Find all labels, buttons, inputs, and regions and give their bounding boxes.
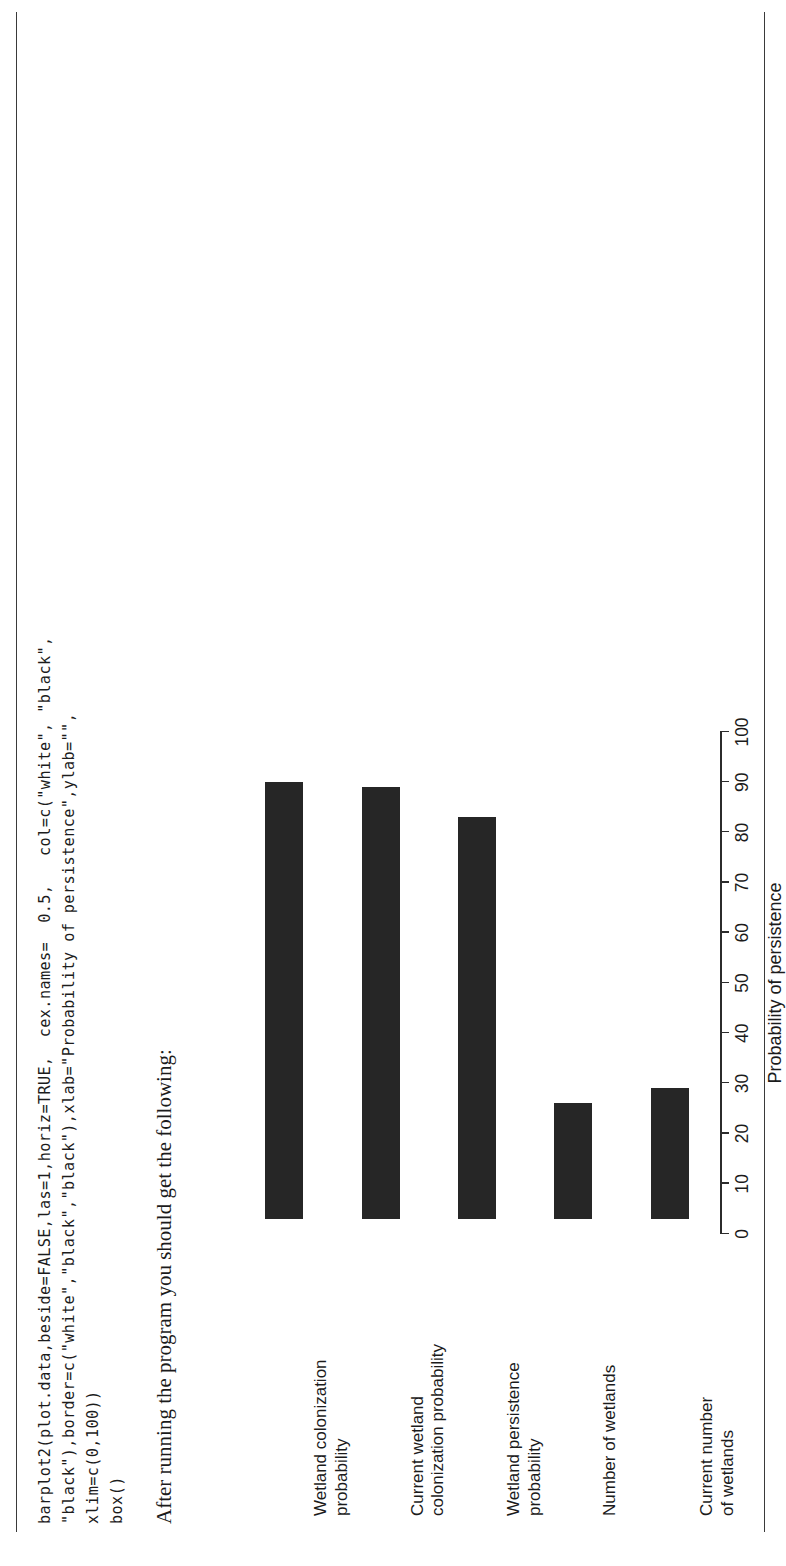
x-axis-tick	[720, 982, 729, 983]
code-line-2: "black"),border=c("white","black","black…	[60, 713, 78, 1524]
x-axis-tick	[720, 1182, 729, 1183]
bar	[458, 817, 496, 1219]
x-axis-tick-label: 50	[732, 973, 753, 992]
x-axis-tick-label: 70	[732, 873, 753, 892]
x-axis-tick	[720, 1132, 729, 1133]
page-rule-bottom	[764, 12, 765, 1532]
x-axis-tick	[720, 1233, 729, 1234]
bar	[265, 782, 303, 1219]
x-axis-tick	[720, 931, 729, 932]
x-axis-tick-label: 100	[732, 717, 753, 746]
plot-panel	[236, 732, 718, 1234]
category-label: Number of wetlands	[600, 1246, 621, 1516]
x-axis-tick-label: 0	[732, 1229, 753, 1239]
page-rule-top	[16, 12, 17, 1532]
bar-chart-figure: Probability of persistence Wetland colon…	[220, 344, 740, 1524]
x-axis-tick-label: 90	[732, 772, 753, 791]
x-axis-title: Probability of persistence	[765, 882, 786, 1083]
code-line-1: barplot2(plot.data,beside=FALSE,las=1,ho…	[36, 636, 54, 1524]
x-axis-tick-label: 10	[732, 1174, 753, 1193]
x-axis-tick	[720, 831, 729, 832]
category-label: Wetland colonizationprobability	[311, 1246, 352, 1516]
x-axis-tick-label: 80	[732, 823, 753, 842]
x-axis-line	[720, 732, 722, 1234]
bar	[362, 787, 400, 1219]
code-line-3: xlim=c(0,100))	[84, 1390, 102, 1524]
category-label: Current wetlandcolonization probability	[408, 1246, 449, 1516]
x-axis-tick	[720, 731, 729, 732]
x-axis-tick-label: 60	[732, 923, 753, 942]
bar	[651, 1088, 689, 1219]
bar	[554, 1104, 592, 1219]
x-axis-tick	[720, 881, 729, 882]
x-axis-tick-label: 20	[732, 1124, 753, 1143]
x-axis-tick-label: 30	[732, 1074, 753, 1093]
x-axis-tick-label: 40	[732, 1023, 753, 1042]
prose-paragraph: After running the program you should get…	[152, 1049, 177, 1524]
category-label: Current numberof wetlands	[697, 1246, 738, 1516]
code-line-4: box()	[108, 1476, 126, 1524]
x-axis-tick	[720, 781, 729, 782]
category-label: Wetland persistenceprobability	[504, 1246, 545, 1516]
x-axis-tick	[720, 1082, 729, 1083]
x-axis-tick	[720, 1032, 729, 1033]
